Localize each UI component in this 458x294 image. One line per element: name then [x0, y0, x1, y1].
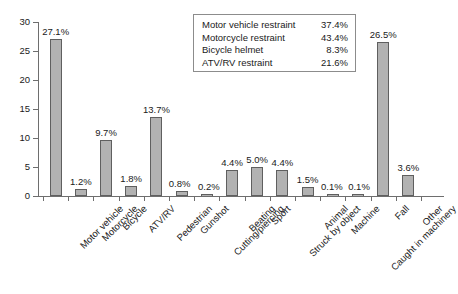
x-tick	[93, 197, 94, 201]
legend-row: Motorcycle restraint43.4%	[202, 32, 348, 45]
x-tick	[320, 197, 321, 201]
y-axis-spine	[38, 22, 39, 196]
y-tick	[33, 196, 38, 197]
legend-label: Motor vehicle restraint	[202, 19, 295, 32]
bar	[377, 42, 389, 196]
legend-row: ATV/RV restraint21.6%	[202, 57, 348, 70]
bar-value-label: 26.5%	[363, 30, 403, 40]
x-tick	[194, 197, 195, 201]
bar	[352, 194, 364, 196]
bar-value-label: 9.7%	[86, 128, 126, 138]
x-tick	[345, 197, 346, 201]
category-label: Fall	[393, 203, 412, 222]
legend-row: Bicycle helmet8.3%	[202, 44, 348, 57]
x-tick	[68, 197, 69, 201]
bar-value-label: 1.2%	[61, 177, 101, 187]
y-tick	[33, 167, 38, 168]
bar	[125, 186, 137, 196]
y-tick	[33, 80, 38, 81]
x-tick	[371, 197, 372, 201]
bar-value-label: 27.1%	[36, 27, 76, 37]
bar-value-label: 0.1%	[339, 182, 379, 192]
bar-value-label: 13.7%	[136, 105, 176, 115]
category-label: ATV/RV	[146, 203, 177, 234]
legend-row: Motor vehicle restraint37.4%	[202, 19, 348, 32]
y-tick-label: 10	[4, 133, 30, 143]
bar	[75, 189, 87, 196]
x-tick	[295, 197, 296, 201]
y-tick-label: 5	[4, 162, 30, 172]
y-tick-label: 0	[4, 191, 30, 201]
y-tick-label: 30	[4, 17, 30, 27]
bar-value-label: 0.2%	[189, 182, 229, 192]
x-tick	[270, 197, 271, 201]
x-tick	[219, 197, 220, 201]
y-tick-label: 20	[4, 75, 30, 85]
x-tick	[396, 197, 397, 201]
x-tick	[245, 197, 246, 201]
x-tick	[169, 197, 170, 201]
legend-value: 37.4%	[316, 19, 348, 32]
bar	[50, 39, 62, 196]
x-tick	[421, 197, 422, 201]
legend-value: 43.4%	[316, 32, 348, 45]
x-axis-spine	[38, 196, 444, 197]
legend-label: Bicycle helmet	[202, 44, 263, 57]
bar	[276, 170, 288, 196]
bar	[251, 167, 263, 196]
legend-label: Motorcycle restraint	[202, 32, 285, 45]
y-tick	[33, 22, 38, 23]
legend-value: 21.6%	[316, 57, 348, 70]
bar	[327, 194, 339, 196]
legend-box: Motor vehicle restraint37.4%Motorcycle r…	[193, 14, 356, 72]
bar	[100, 140, 112, 196]
bar-value-label: 1.8%	[111, 174, 151, 184]
y-tick	[33, 51, 38, 52]
y-tick-label: 25	[4, 46, 30, 56]
bar	[201, 194, 213, 196]
bar-value-label: 3.6%	[388, 163, 428, 173]
bar-value-label: 4.4%	[262, 158, 302, 168]
y-tick-label: 15	[4, 104, 30, 114]
bar	[402, 175, 414, 196]
x-tick	[119, 197, 120, 201]
x-tick	[144, 197, 145, 201]
x-tick	[43, 197, 44, 201]
legend-label: ATV/RV restraint	[202, 57, 272, 70]
y-tick	[33, 138, 38, 139]
y-tick	[33, 109, 38, 110]
bar	[176, 191, 188, 196]
legend-value: 8.3%	[316, 44, 348, 57]
